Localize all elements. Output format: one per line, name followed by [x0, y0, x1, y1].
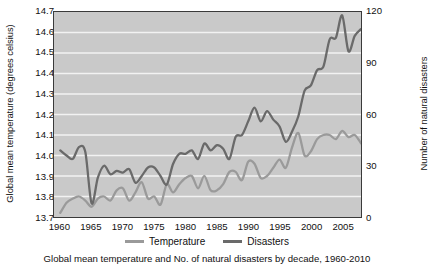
plot-area	[53, 11, 362, 218]
legend-item[interactable]: Disasters	[223, 236, 289, 247]
legend-swatch-icon	[125, 240, 144, 244]
y-tick-label-left: 14.7	[14, 5, 54, 16]
y-tick-label-right: 90	[366, 57, 406, 68]
y-tick-label-left: 14.3	[14, 88, 54, 99]
chart-legend: TemperatureDisasters	[0, 236, 414, 247]
legend-label: Disasters	[247, 236, 289, 247]
legend-swatch-icon	[223, 240, 242, 244]
y-tick-label-left: 14.0	[14, 150, 54, 161]
figure-caption: Global mean temperature and No. of natur…	[0, 253, 414, 264]
y-tick-label-right: 30	[366, 160, 406, 171]
x-tick-label: 2005	[323, 221, 363, 232]
y-tick-label-left: 13.9	[14, 171, 54, 182]
y-tick-label-left: 14.6	[14, 26, 54, 37]
y-tick-label-right: 60	[366, 109, 406, 120]
y-axis-left-label: Global mean temperature (degrees celsius…	[4, 9, 15, 219]
legend-item[interactable]: Temperature	[125, 236, 205, 247]
y-tick-label-left: 13.8	[14, 191, 54, 202]
y-tick-label-left: 14.1	[14, 129, 54, 140]
series-line-temperature	[60, 131, 361, 213]
y-tick-label-left: 14.5	[14, 46, 54, 57]
y-axis-right-label: Number of natural disasters	[418, 9, 429, 219]
y-tick-label-left: 14.2	[14, 109, 54, 120]
y-tick-label-right: 120	[366, 5, 406, 16]
y-tick-label-right: 0	[366, 212, 406, 223]
y-tick-label-left: 14.4	[14, 67, 54, 78]
legend-label: Temperature	[149, 236, 205, 247]
plot-canvas	[54, 12, 361, 217]
